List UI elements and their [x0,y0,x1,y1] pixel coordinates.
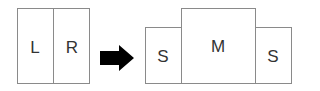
right-arrow-icon [99,44,135,72]
panel-right-label: R [66,39,78,56]
panel-side-right-label: S [267,48,278,65]
panel-side-left-label: S [157,48,168,65]
panel-left-label: L [30,39,39,56]
panel-main-label: M [211,38,225,55]
